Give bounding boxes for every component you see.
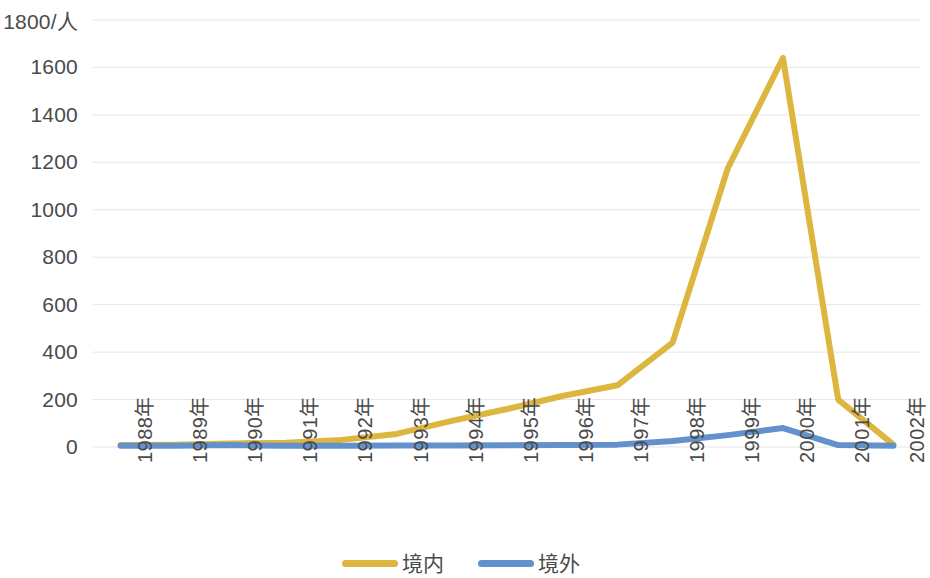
- x-tick-label: 2002年: [901, 396, 930, 463]
- y-tick-label: 1800/人: [3, 5, 78, 35]
- y-tick-label: 0: [66, 435, 78, 459]
- plot-svg: [93, 20, 921, 447]
- series-line-domestic: [121, 58, 894, 445]
- legend-swatch-overseas: [478, 560, 534, 567]
- x-tick-label: 1999年: [736, 396, 765, 463]
- legend-item-domestic[interactable]: 境内: [342, 553, 444, 574]
- y-tick-label: 1400: [30, 103, 78, 127]
- x-tick-label: 1989年: [184, 396, 213, 463]
- series-line-overseas: [121, 428, 894, 446]
- x-tick-label: 1992年: [349, 396, 378, 463]
- legend-item-overseas[interactable]: 境外: [478, 553, 580, 574]
- y-tick-label: 200: [42, 388, 78, 412]
- x-tick-label: 1994年: [460, 396, 489, 463]
- legend-label-overseas: 境外: [538, 553, 580, 574]
- y-tick-label: 1000: [30, 198, 78, 222]
- legend-swatch-domestic: [342, 560, 398, 567]
- x-axis: 1988年1989年1990年1991年1992年1993年1994年1995年…: [93, 447, 921, 547]
- x-tick-label: 1993年: [405, 396, 434, 463]
- series-lines: [121, 58, 894, 446]
- y-tick-label: 1200: [30, 150, 78, 174]
- x-tick-label: 1988年: [129, 396, 158, 463]
- x-tick-label: 1997年: [625, 396, 654, 463]
- chart-legend: 境内 境外: [0, 549, 921, 578]
- x-tick-label: 2001年: [846, 396, 875, 463]
- legend-label-domestic: 境内: [402, 553, 444, 574]
- x-tick-label: 2000年: [791, 396, 820, 463]
- x-tick-label: 1996年: [570, 396, 599, 463]
- y-tick-label: 600: [42, 293, 78, 317]
- x-tick-label: 1990年: [239, 396, 268, 463]
- gridlines: [93, 20, 921, 447]
- y-tick-label: 1600: [30, 55, 78, 79]
- y-tick-label: 400: [42, 340, 78, 364]
- x-tick-label: 1991年: [294, 396, 323, 463]
- y-axis: 1800/人16001400120010008006004002000: [0, 0, 86, 470]
- x-tick-label: 1995年: [515, 396, 544, 463]
- plot-area: [93, 20, 921, 447]
- x-tick-label: 1998年: [681, 396, 710, 463]
- y-tick-label: 800: [42, 245, 78, 269]
